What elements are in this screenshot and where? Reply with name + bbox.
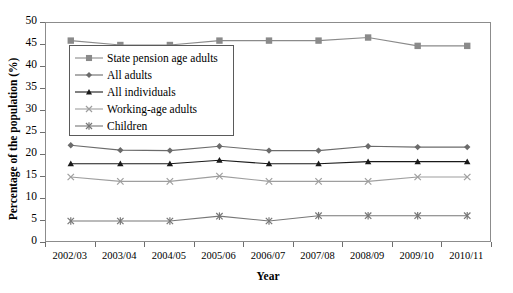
legend-label: All individuals xyxy=(104,85,176,99)
data-point-marker xyxy=(315,37,321,43)
x-tick-mark xyxy=(342,242,343,247)
data-series xyxy=(68,157,471,166)
x-tick-label: 2008/09 xyxy=(342,250,392,261)
x-tick-mark xyxy=(95,242,96,247)
x-tick-label: 2003/04 xyxy=(95,250,145,261)
legend-item-all-individuals[interactable]: All individuals xyxy=(70,83,233,100)
legend-marker-triangle-icon xyxy=(74,85,104,99)
x-tick-mark xyxy=(293,242,294,247)
legend-marker-x-icon xyxy=(74,102,104,116)
data-point-marker xyxy=(167,147,173,153)
legend-label: Working-age adults xyxy=(104,102,197,116)
y-tick-label: 40 xyxy=(7,58,37,70)
x-tick-mark xyxy=(441,242,442,247)
y-tick-label: 35 xyxy=(7,80,37,92)
data-point-marker xyxy=(216,37,222,43)
data-point-marker xyxy=(68,142,74,148)
data-point-marker xyxy=(117,147,123,153)
legend-item-children[interactable]: Children xyxy=(70,117,233,134)
data-point-marker xyxy=(266,37,272,43)
y-tick-label: 0 xyxy=(7,234,37,246)
x-tick-mark xyxy=(491,242,492,247)
y-tick-label: 20 xyxy=(7,146,37,158)
y-tick-label: 25 xyxy=(7,124,37,136)
x-tick-label: 2010/11 xyxy=(441,250,491,261)
x-tick-label: 2004/05 xyxy=(144,250,194,261)
chart-legend: State pension age adultsAll adultsAll in… xyxy=(69,45,234,136)
legend-item-state-pension-age-adults[interactable]: State pension age adults xyxy=(70,49,233,66)
data-point-marker xyxy=(365,143,371,149)
data-point-marker xyxy=(414,43,420,49)
y-tick-label: 50 xyxy=(7,14,37,26)
legend-item-all-adults[interactable]: All adults xyxy=(70,66,233,83)
legend-marker-diamond-icon xyxy=(74,68,104,82)
legend-marker-square-icon xyxy=(74,51,104,65)
legend-label: State pension age adults xyxy=(104,51,218,65)
data-series xyxy=(68,173,471,185)
x-tick-mark xyxy=(194,242,195,247)
chart-figure: Percentage of the population (%) 0510152… xyxy=(0,0,513,293)
x-tick-label: 2006/07 xyxy=(243,250,293,261)
data-point-marker xyxy=(68,37,74,43)
legend-item-working-age-adults[interactable]: Working-age adults xyxy=(70,100,233,117)
data-point-marker xyxy=(266,147,272,153)
data-point-marker xyxy=(216,143,222,149)
legend-label: Children xyxy=(104,119,147,133)
y-tick-label: 5 xyxy=(7,212,37,224)
data-point-marker xyxy=(414,144,420,150)
x-tick-label: 2007/08 xyxy=(293,250,343,261)
x-tick-mark xyxy=(45,242,46,247)
legend-marker-asterisk-icon xyxy=(74,119,104,133)
legend-label: All adults xyxy=(104,68,152,82)
data-series xyxy=(68,212,471,225)
x-tick-mark xyxy=(144,242,145,247)
data-point-marker xyxy=(464,144,470,150)
x-axis-title: Year xyxy=(45,270,491,282)
y-tick-label: 30 xyxy=(7,102,37,114)
data-point-marker xyxy=(365,34,371,40)
y-tick-label: 10 xyxy=(7,190,37,202)
y-tick-label: 15 xyxy=(7,168,37,180)
data-point-marker xyxy=(315,147,321,153)
data-series xyxy=(68,142,471,154)
x-tick-mark xyxy=(243,242,244,247)
x-tick-label: 2009/10 xyxy=(392,250,442,261)
x-tick-label: 2005/06 xyxy=(194,250,244,261)
x-tick-mark xyxy=(392,242,393,247)
y-tick-label: 45 xyxy=(7,36,37,48)
x-tick-label: 2002/03 xyxy=(45,250,95,261)
data-point-marker xyxy=(464,43,470,49)
